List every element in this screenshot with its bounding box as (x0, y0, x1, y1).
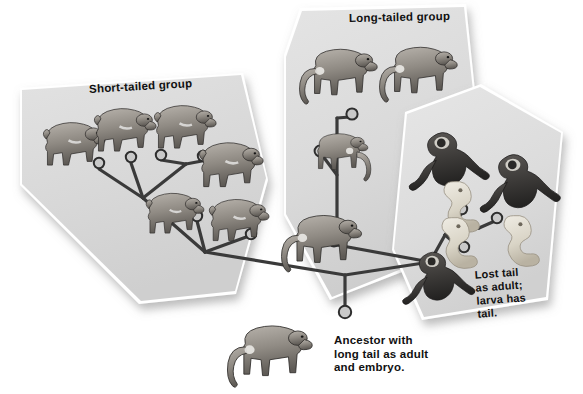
ancestor-note: Ancestor withlong tail as adultand embry… (334, 334, 428, 375)
root-node (339, 306, 351, 318)
long-tailed-group-title: Long-tailed group (349, 10, 450, 24)
figure-canvas: Short-tailed group Long-tailed group Los… (0, 0, 583, 394)
tip-node (94, 158, 104, 168)
tip-node (492, 213, 502, 223)
tip-node (346, 108, 357, 119)
panel-short-tailed (20, 73, 268, 304)
tip-node (126, 152, 136, 162)
ancestor-baboon (227, 326, 312, 387)
tip-node (156, 150, 166, 160)
lost-tail-note: Lost tailas adult;larva hastail. (474, 265, 527, 320)
cladogram-svg (0, 0, 583, 394)
